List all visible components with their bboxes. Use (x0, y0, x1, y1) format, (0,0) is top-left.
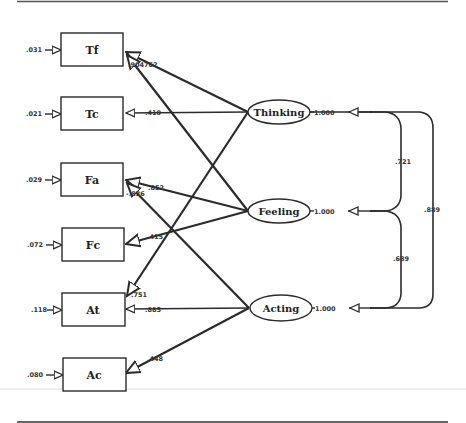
error-tf: .031 (26, 46, 43, 54)
label-fa: Fa (85, 174, 99, 187)
variance-feeling: 1.000 (314, 208, 335, 216)
coef-thinking-tf: .904762 (128, 61, 158, 69)
sem-path-diagram: .904762 .410 .751 .852 .415 -.826 .885 .… (0, 0, 466, 423)
observed-fa: .029 Fa (26, 163, 123, 196)
error-at: .118 (31, 306, 48, 314)
label-ac: Ac (85, 369, 102, 382)
corr-label-thinking-acting: .889 (424, 206, 441, 214)
observed-variables: .031 Tf .021 Tc .029 Fa .072 Fc .118 (26, 33, 126, 391)
corr-label-feeling-acting: .689 (393, 255, 410, 263)
error-ac: .080 (27, 371, 44, 379)
coef-thinking-tc: .410 (145, 109, 162, 117)
label-fc: Fc (86, 239, 101, 252)
variance-thinking: 1.000 (314, 109, 335, 117)
arrowhead-thinking (349, 108, 358, 116)
path-thinking-at (127, 112, 248, 296)
coef-acting-at: .885 (145, 306, 162, 314)
variance-acting: 1.000 (315, 305, 336, 313)
corr-label-thinking-feeling: .721 (395, 158, 412, 166)
latent-thinking: Thinking 1.000 (248, 100, 372, 124)
latent-acting: Acting 1.000 (250, 295, 372, 321)
label-acting: Acting (262, 303, 300, 314)
observed-tc: .021 Tc (26, 97, 123, 130)
coef-acting-ac: .448 (147, 355, 164, 363)
coef-feeling-fa: .852 (148, 184, 164, 192)
loading-labels: .904762 .410 .751 .852 .415 -.826 .885 .… (126, 61, 164, 363)
observed-tf: .031 Tf (26, 33, 123, 66)
error-fc: .072 (27, 241, 43, 249)
arrowhead-acting (350, 304, 359, 312)
latent-feeling: Feeling 1.000 (248, 199, 372, 223)
label-thinking: Thinking (254, 107, 305, 118)
label-at: At (85, 304, 100, 317)
path-feeling-tf (127, 55, 248, 211)
label-tc: Tc (85, 108, 99, 121)
path-feeling-fc (126, 211, 248, 244)
coef-acting-fa: -.826 (126, 190, 145, 198)
error-fa: .029 (26, 176, 43, 184)
coef-feeling-fc: .415 (147, 233, 164, 241)
path-acting-ac (126, 308, 249, 373)
latent-variables: Thinking 1.000 Feeling 1.000 Acting 1.00… (248, 100, 372, 321)
label-feeling: Feeling (258, 206, 299, 217)
observed-at: .118 At (31, 293, 125, 326)
loading-paths (126, 52, 249, 373)
observed-ac: .080 Ac (27, 358, 126, 391)
observed-fc: .072 Fc (27, 228, 124, 261)
coef-thinking-at: .751 (131, 291, 148, 299)
correlation-curves: .721 .689 .889 (370, 112, 441, 308)
error-tc: .021 (26, 110, 43, 118)
label-tf: Tf (86, 44, 100, 57)
arrowhead-feeling (349, 207, 358, 215)
